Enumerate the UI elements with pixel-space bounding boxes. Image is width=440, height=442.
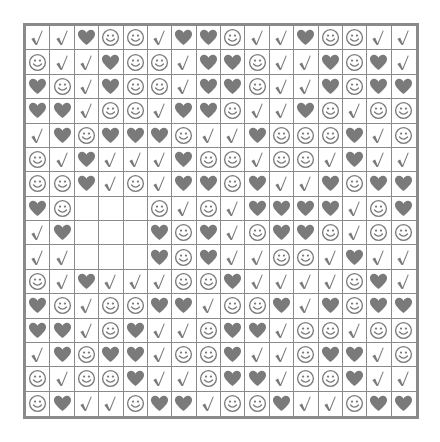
grid-cell-r9-c2 — [50, 221, 74, 245]
grid-cell-r15-c9 — [221, 367, 245, 391]
grid-cell-r7-c11 — [270, 172, 294, 196]
smiley-icon — [53, 199, 72, 218]
grid-cell-r12-c12 — [294, 294, 318, 318]
grid-cell-r3-c16 — [392, 75, 416, 99]
grid-cell-r2-c10 — [245, 50, 269, 74]
grid-cell-r10-c2 — [50, 245, 74, 269]
check-icon — [248, 345, 267, 364]
grid-cell-r11-c16 — [392, 270, 416, 294]
grid-cell-r6-c4 — [99, 148, 123, 172]
grid-cell-r14-c13 — [319, 343, 343, 367]
grid-cell-r1-c4 — [99, 26, 123, 50]
smiley-icon — [174, 126, 193, 145]
check-icon — [101, 150, 120, 169]
smiley-icon — [199, 321, 218, 340]
grid-cell-r12-c9 — [221, 294, 245, 318]
check-icon — [321, 394, 340, 413]
check-icon — [53, 53, 72, 72]
heart-icon — [345, 248, 364, 267]
check-icon — [53, 28, 72, 47]
grid-cell-r15-c12 — [294, 367, 318, 391]
grid-cell-r15-c11 — [270, 367, 294, 391]
grid-cell-r1-c15 — [367, 26, 391, 50]
check-icon — [296, 272, 315, 291]
heart-icon — [394, 77, 413, 96]
check-icon — [199, 296, 218, 315]
grid-cell-r12-c1 — [26, 294, 50, 318]
grid-cell-r5-c11 — [270, 124, 294, 148]
grid-cell-r11-c10 — [245, 270, 269, 294]
heart-icon — [394, 174, 413, 193]
heart-icon — [296, 199, 315, 218]
grid-cell-r3-c3 — [75, 75, 99, 99]
check-icon — [321, 150, 340, 169]
heart-icon — [199, 101, 218, 120]
grid-cell-r7-c15 — [367, 172, 391, 196]
heart-icon — [150, 223, 169, 242]
grid-cell-r7-c6 — [148, 172, 172, 196]
smiley-icon — [126, 101, 145, 120]
grid-cell-r2-c5 — [124, 50, 148, 74]
heart-icon — [272, 394, 291, 413]
smiley-icon — [199, 369, 218, 388]
grid-cell-r14-c16 — [392, 343, 416, 367]
grid-cell-r16-c8 — [197, 392, 221, 416]
grid-cell-r1-c7 — [172, 26, 196, 50]
check-icon — [126, 150, 145, 169]
grid-cell-r5-c8 — [197, 124, 221, 148]
grid-cell-r16-c9 — [221, 392, 245, 416]
check-icon — [126, 272, 145, 291]
check-icon — [28, 248, 47, 267]
grid-cell-r6-c16 — [392, 148, 416, 172]
grid-cell-r6-c10 — [245, 148, 269, 172]
grid-cell-r7-c14 — [343, 172, 367, 196]
smiley-icon — [345, 174, 364, 193]
heart-icon — [369, 77, 388, 96]
grid-cell-r9-c8 — [197, 221, 221, 245]
smiley-icon — [28, 53, 47, 72]
grid-cell-r15-c5 — [124, 367, 148, 391]
check-icon — [394, 150, 413, 169]
smiley-icon — [77, 345, 96, 364]
check-icon — [223, 248, 242, 267]
smiley-icon — [101, 321, 120, 340]
grid-cell-r6-c6 — [148, 148, 172, 172]
grid-cell-r1-c1 — [26, 26, 50, 50]
smiley-icon — [321, 101, 340, 120]
heart-icon — [199, 53, 218, 72]
heart-icon — [77, 150, 96, 169]
grid-cell-r3-c7 — [172, 75, 196, 99]
smiley-icon — [394, 223, 413, 242]
smiley-icon — [321, 126, 340, 145]
heart-icon — [321, 174, 340, 193]
smiley-icon — [321, 321, 340, 340]
grid-cell-r4-c15 — [367, 99, 391, 123]
grid-cell-r14-c1 — [26, 343, 50, 367]
grid-cell-r6-c11 — [270, 148, 294, 172]
heart-icon — [199, 248, 218, 267]
grid-cell-r13-c11 — [270, 319, 294, 343]
smiley-icon — [296, 126, 315, 145]
grid-cell-r4-c2 — [50, 99, 74, 123]
empty-cell-r8-c5 — [124, 197, 148, 221]
grid-cell-r16-c5 — [124, 392, 148, 416]
heart-icon — [101, 126, 120, 145]
grid-cell-r8-c13 — [319, 197, 343, 221]
grid-cell-r15-c1 — [26, 367, 50, 391]
grid-cell-r7-c4 — [99, 172, 123, 196]
check-icon — [150, 345, 169, 364]
grid-cell-r7-c5 — [124, 172, 148, 196]
grid-cell-r15-c7 — [172, 367, 196, 391]
check-icon — [101, 272, 120, 291]
grid-cell-r4-c12 — [294, 99, 318, 123]
grid-cell-r14-c3 — [75, 343, 99, 367]
grid-cell-r14-c9 — [221, 343, 245, 367]
smiley-icon — [369, 321, 388, 340]
smiley-icon — [345, 28, 364, 47]
heart-icon — [321, 345, 340, 364]
grid-cell-r7-c1 — [26, 172, 50, 196]
heart-icon — [101, 77, 120, 96]
grid-cell-r7-c3 — [75, 172, 99, 196]
empty-cell-r10-c3 — [75, 245, 99, 269]
check-icon — [101, 394, 120, 413]
